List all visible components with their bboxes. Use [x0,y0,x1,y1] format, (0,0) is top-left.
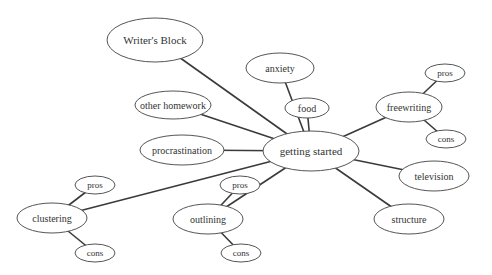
node-clustering-pros: pros [75,176,115,194]
node-writers-block: Writer's Block [107,18,203,62]
node-other-homework: other homework [135,91,211,119]
node-label: procrastination [152,145,212,156]
node-food: food [285,98,329,118]
node-label: pros [232,180,248,190]
node-label: clustering [32,213,71,224]
node-anxiety: anxiety [246,53,314,83]
node-label: food [298,103,316,114]
node-label: other homework [140,100,206,111]
node-clustering-cons: cons [75,244,115,262]
node-outlining-pros: pros [220,176,260,194]
node-getting-started: getting started [263,131,359,171]
node-label: getting started [280,145,343,157]
mind-map-diagram: getting startedWriter's Blockanxietyothe… [0,0,492,275]
node-label: Writer's Block [123,34,187,46]
node-outlining: outlining [173,204,243,234]
node-procrastination: procrastination [140,135,224,165]
node-freewriting-cons: cons [426,130,466,148]
node-label: pros [87,180,103,190]
node-label: freewriting [387,102,431,113]
node-label: television [415,171,454,182]
node-label: structure [392,214,428,225]
node-label: anxiety [265,63,294,74]
node-freewriting: freewriting [376,92,442,122]
node-clustering: clustering [17,203,87,233]
node-freewriting-pros: pros [425,64,465,82]
node-outlining-cons: cons [221,244,261,262]
node-label: cons [438,134,455,144]
node-label: cons [233,248,250,258]
node-label: outlining [190,214,226,225]
node-label: cons [87,248,104,258]
node-label: pros [437,68,453,78]
nodes-layer: getting startedWriter's Blockanxietyothe… [17,18,469,262]
node-television: television [399,161,469,191]
node-structure: structure [374,204,444,234]
